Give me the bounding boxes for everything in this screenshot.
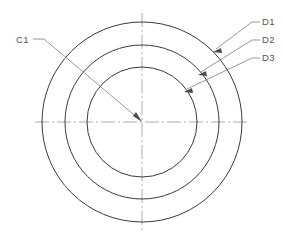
d2-label: D2 xyxy=(262,34,275,45)
d2-leader-line xyxy=(201,40,252,72)
d1-label: D1 xyxy=(262,16,275,27)
c1-arrow-icon xyxy=(133,112,142,122)
d1-leader-line xyxy=(216,22,252,49)
c1-label: C1 xyxy=(16,34,29,45)
technical-drawing-canvas: C1 D1 D2 D3 xyxy=(0,0,283,243)
cad-drawing-svg: C1 D1 D2 D3 xyxy=(0,0,283,243)
c1-leader-line xyxy=(44,39,139,119)
d3-leader-line xyxy=(187,58,252,89)
callout-d3: D3 xyxy=(184,52,275,93)
d3-label: D3 xyxy=(262,52,275,63)
d2-arrow-icon xyxy=(198,71,207,76)
